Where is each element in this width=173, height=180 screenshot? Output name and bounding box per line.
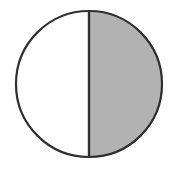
fraction-circle-diagram — [0, 0, 173, 180]
figure-canvas: Circle divided in half with right half s… — [0, 0, 173, 180]
